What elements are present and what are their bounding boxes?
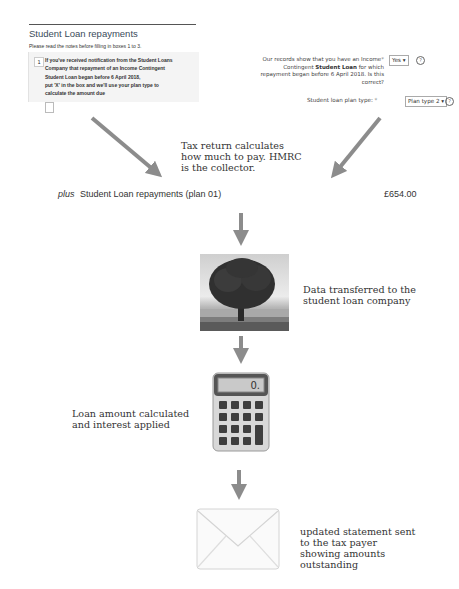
envelope-icon — [196, 508, 280, 570]
label-text: Student loan plan type: — [307, 97, 373, 103]
repayment-line: plus Student Loan repayments (plan 01) — [58, 189, 221, 199]
tax-return-caption: Tax return calculates how much to pay. H… — [181, 140, 306, 173]
required-marker: * — [375, 97, 378, 103]
tree-image — [200, 254, 289, 331]
question-line: Company that repayment of an Income Cont… — [45, 64, 195, 72]
data-transfer-caption: Data transferred to the student loan com… — [303, 284, 428, 306]
arrow-down-right-icon — [92, 118, 156, 172]
question-line: put 'X' in the box and we'll use your pl… — [45, 81, 195, 89]
help-icon[interactable]: ? — [445, 97, 454, 106]
tree-icon — [200, 254, 289, 331]
question-number: 1 — [34, 57, 44, 67]
question-line: If you've received notification from the… — [45, 56, 195, 64]
question-text: If you've received notification from the… — [45, 56, 195, 97]
repayment-label: Student Loan repayments (plan 01) — [80, 189, 221, 199]
label-text: Our records show that you have an Income — [262, 56, 381, 62]
plan-type-select[interactable]: Plan type 2 ▾ — [405, 96, 447, 107]
repayment-amount: £654.00 — [384, 189, 417, 199]
required-marker: * — [381, 56, 384, 62]
label-text: Contingent — [283, 64, 315, 70]
arrow-down-left-icon — [336, 118, 380, 172]
question-line: Student Loan began before 6 April 2018, — [45, 73, 195, 81]
records-question-label: Our records show that you have an Income… — [256, 56, 384, 86]
svg-text:0.: 0. — [250, 380, 260, 391]
question-checkbox[interactable] — [45, 102, 54, 113]
statement-caption: updated statement sent to the tax payer … — [300, 526, 420, 570]
plan-type-label: Student loan plan type: * — [307, 97, 377, 103]
loan-calculation-caption: Loan amount calculated and interest appl… — [72, 408, 202, 430]
section-instructions: Please read the notes before filling in … — [29, 43, 141, 49]
label-bold-text: Student Loan — [315, 64, 357, 70]
section-divider — [29, 24, 196, 25]
calculator-icon: 0. — [212, 372, 270, 452]
records-confirm-select[interactable]: Yes ▾ — [389, 55, 409, 66]
help-icon[interactable]: ? — [416, 56, 425, 65]
question-line: calculate the amount due — [45, 89, 195, 97]
plus-prefix: plus — [58, 189, 75, 199]
section-title: Student Loan repayments — [29, 28, 138, 39]
